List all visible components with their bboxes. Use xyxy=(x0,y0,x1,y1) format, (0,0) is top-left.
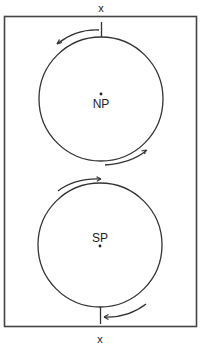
north-pole-label: NP xyxy=(93,97,110,111)
south-upper-left-arc xyxy=(58,179,101,191)
south-pole-label: SP xyxy=(92,231,108,245)
bottom-x-label: x xyxy=(97,333,103,345)
diagram-frame xyxy=(5,17,197,327)
top-x-label: x xyxy=(98,2,104,14)
north-lower-right-arc xyxy=(105,150,147,165)
south-pole-dot xyxy=(99,245,102,248)
rotation-diagram: x x NP SP xyxy=(0,0,202,346)
north-pole-dot xyxy=(100,93,103,96)
